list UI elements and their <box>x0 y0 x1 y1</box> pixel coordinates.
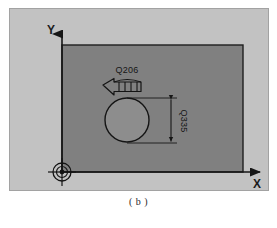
y-axis-label: Y <box>47 23 55 37</box>
technical-drawing-figure: Q335 Q206 Y X <box>0 0 277 228</box>
workpiece <box>62 45 243 172</box>
pocket <box>105 98 149 142</box>
workpiece-rect <box>62 45 243 172</box>
depth-dimension-label: Q335 <box>179 110 189 133</box>
drawing-canvas: Q335 Q206 Y X <box>9 8 269 191</box>
x-axis-label: X <box>253 177 261 191</box>
pocket-circle <box>105 98 149 142</box>
figure-caption: ( b ) <box>0 196 277 207</box>
feed-rate-label: Q206 <box>116 65 139 75</box>
